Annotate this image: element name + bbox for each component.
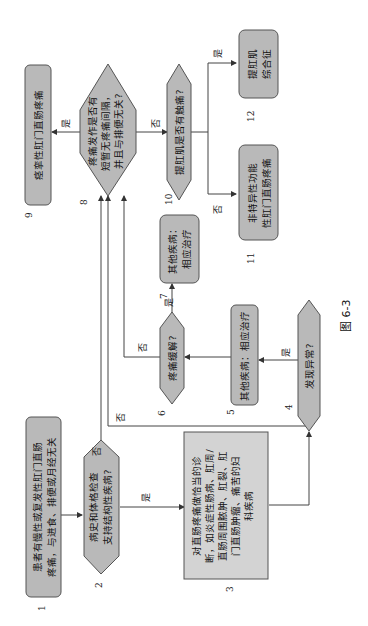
- svg-text:门直肠肿瘤、痛苦的妇: 门直肠肿瘤、痛苦的妇: [230, 456, 241, 556]
- svg-text:8: 8: [79, 199, 89, 205]
- svg-text:是: 是: [281, 348, 291, 357]
- edge-6-8: [124, 196, 160, 357]
- svg-text:9: 9: [24, 212, 34, 218]
- svg-text:综合征: 综合征: [261, 49, 272, 79]
- flowchart: 痉挛性肛门直肠疼痛 9 疼痛发作是否有 短暂无疼痛间隔， 并且与排便无关? 8 …: [0, 0, 368, 626]
- svg-text:科疾病: 科疾病: [243, 491, 254, 521]
- svg-text:并且与排便无关?: 并且与排便无关?: [113, 93, 124, 168]
- figure-caption: 图 6-3: [340, 300, 353, 332]
- svg-text:相应治疗: 相应治疗: [181, 229, 192, 269]
- svg-text:12: 12: [246, 111, 256, 122]
- node-8: 疼痛发作是否有 短暂无疼痛间隔， 并且与排便无关? 8: [79, 64, 136, 205]
- svg-text:是: 是: [141, 493, 151, 502]
- svg-text:患者有慢性或复发性肛门直肠: 患者有慢性或复发性肛门直肠: [32, 442, 43, 572]
- node-2: 病史和体格检查 支持结构性疾病? 2: [84, 440, 119, 588]
- svg-text:11: 11: [246, 253, 256, 264]
- svg-text:是: 是: [61, 119, 71, 128]
- svg-text:6: 6: [157, 410, 167, 416]
- svg-text:疼痛发作是否有: 疼痛发作是否有: [87, 96, 98, 166]
- svg-text:5: 5: [226, 409, 236, 415]
- node-3: 对直肠疼痛做恰当的诊 断，如炎症性肠病、肛周/ 直肠周围脓肿、肛裂、肛 门直肠肿…: [184, 432, 268, 592]
- svg-text:支持结构性疾病?: 支持结构性疾病?: [102, 469, 113, 544]
- svg-text:直肠周围脓肿、肛裂、肛: 直肠周围脓肿、肛裂、肛: [217, 451, 228, 561]
- svg-text:非特异性功能: 非特异性功能: [247, 163, 258, 223]
- svg-text:病史和体格检查: 病史和体格检查: [88, 472, 99, 542]
- svg-text:痉挛性肛门直肠疼痛: 痉挛性肛门直肠疼痛: [33, 90, 44, 180]
- node-1: 患者有慢性或复发性肛门直肠 疼痛，与进食、排便或月经无关 1: [26, 417, 61, 611]
- svg-text:10: 10: [164, 193, 174, 205]
- svg-text:是: 是: [164, 298, 174, 307]
- svg-text:2: 2: [94, 582, 104, 588]
- svg-text:否: 否: [151, 119, 161, 128]
- svg-text:短暂无疼痛间隔，: 短暂无疼痛间隔，: [100, 91, 111, 171]
- svg-text:性肛门直肠疼痛: 性肛门直肠疼痛: [261, 158, 272, 228]
- node-6: 疼痛缓解? 6: [157, 312, 184, 416]
- node-10: 提肛肌是否有触痛? 10: [164, 64, 191, 205]
- svg-text:1: 1: [37, 605, 47, 611]
- node-12: 提肛肌 综合征 12: [239, 30, 278, 122]
- node-5: 其他疾病：相应治疗 5: [226, 305, 258, 415]
- svg-text:疼痛，与进食、排便或月经无关: 疼痛，与进食、排便或月经无关: [46, 437, 57, 577]
- svg-text:其他疾病：: 其他疾病：: [167, 224, 178, 274]
- svg-text:否: 否: [213, 205, 223, 214]
- svg-text:发现异常?: 发现异常?: [304, 343, 315, 388]
- edge-3-4: [269, 432, 309, 505]
- svg-text:提肛肌是否有触痛?: 提肛肌是否有触痛?: [174, 89, 185, 174]
- node-9: 痉挛性肛门直肠疼痛 9: [24, 65, 51, 218]
- svg-text:其他疾病：相应治疗: 其他疾病：相应治疗: [239, 311, 250, 401]
- svg-text:4: 4: [284, 404, 294, 410]
- node-7: 其他疾病： 相应治疗 7: [159, 215, 199, 299]
- node-4: 发现异常? 4: [284, 300, 320, 431]
- svg-text:疼痛缓解?: 疼痛缓解?: [167, 335, 178, 380]
- node-11: 非特异性功能 性肛门直肠疼痛 11: [239, 145, 278, 264]
- svg-text:提肛肌: 提肛肌: [247, 49, 258, 79]
- svg-text:否: 否: [138, 343, 148, 352]
- svg-text:对直肠疼痛做恰当的诊: 对直肠疼痛做恰当的诊: [191, 456, 202, 556]
- svg-text:否: 否: [116, 413, 126, 422]
- svg-text:3: 3: [225, 586, 235, 592]
- svg-text:否: 否: [92, 447, 102, 456]
- svg-text:断，如炎症性肠病、肛周/: 断，如炎症性肠病、肛周/: [204, 449, 215, 563]
- svg-text:是: 是: [213, 49, 223, 58]
